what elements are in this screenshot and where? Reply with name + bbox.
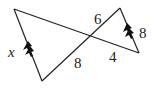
label-8-right: 8 [139,25,147,41]
label-6: 6 [94,11,102,27]
label-8-lower: 8 [74,55,82,71]
label-4: 4 [109,49,117,65]
diagram-canvas: x 6 8 4 8 [0,0,153,88]
segment-a-d [14,9,139,53]
label-x: x [7,44,15,60]
